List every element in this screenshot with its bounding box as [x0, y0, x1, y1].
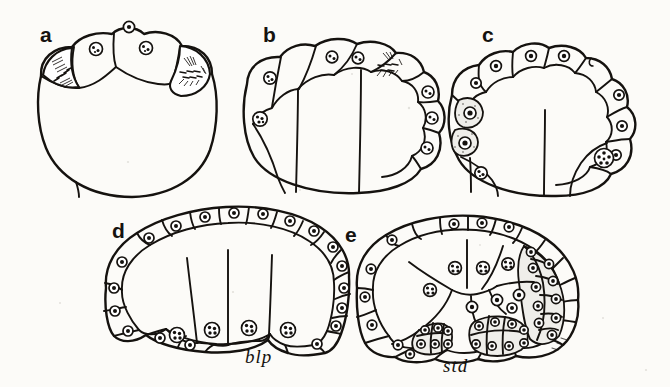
panel-b-nucleus-2 [253, 112, 267, 126]
panel-d-letter: d [112, 219, 125, 242]
blastopore-label: blp [245, 346, 272, 367]
panel-d-blastomere-nucleus-4 [281, 323, 296, 338]
panel-b-letter: b [263, 23, 276, 46]
panel-b-nucleus-5 [422, 86, 434, 98]
panel-c-large-nucleus [595, 149, 614, 168]
panel-b-nucleus-4 [352, 52, 364, 64]
panel-c-letter: c [482, 23, 494, 46]
panel-e-letter: e [345, 223, 357, 246]
panel-b-nucleus-7 [421, 142, 433, 154]
panel-b-nucleus-6 [426, 112, 438, 124]
panel-b-nucleus-3 [326, 51, 338, 63]
panel-a-nucleus-1 [90, 43, 103, 56]
panel-a-nucleus-3 [123, 21, 134, 32]
panel-d-blastomere-nucleus-2 [205, 323, 220, 338]
panel-c-lower-left-nucleus [475, 167, 487, 179]
stomodeum-label: std [443, 355, 468, 376]
panel-a-letter: a [40, 23, 52, 46]
panel-d-blastomere-nucleus-1 [170, 328, 185, 343]
panel-e-stomodeum-right-cluster [469, 316, 528, 356]
panel-c-central-cleft [544, 110, 545, 196]
figure-plate: a [0, 0, 670, 387]
embryo-plate-drawing: a [0, 0, 670, 387]
panel-d-blastomere-nucleus-3 [242, 321, 257, 336]
panel-c-granular-nucleus-2 [459, 137, 471, 149]
panel-b-nucleus-1 [264, 72, 276, 84]
panel-a-nucleus-2 [140, 42, 153, 55]
panel-c-granular-nucleus-1 [464, 107, 476, 119]
panel-c-lower-left-cell-2 [470, 158, 471, 192]
